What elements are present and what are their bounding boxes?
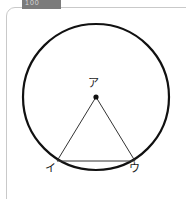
center-point-dot	[93, 94, 98, 99]
geometry-figure	[0, 0, 186, 199]
vertex-label-left: イ	[45, 163, 56, 174]
triangle-shape	[57, 97, 135, 161]
vertex-label-right: ウ	[129, 163, 140, 174]
vertex-label-center: ア	[88, 78, 99, 89]
screenshot-root: 100 ア イ ウ	[0, 0, 186, 199]
geometry-svg	[0, 0, 186, 199]
